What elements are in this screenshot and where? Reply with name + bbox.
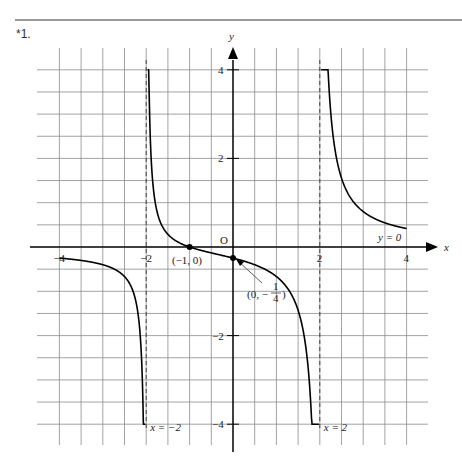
y-tick-label: 4 — [218, 64, 224, 76]
point-marker — [230, 255, 236, 261]
curve-left-branch — [59, 258, 145, 424]
x-axis-label: x — [443, 241, 449, 253]
point-label-0-quarter-num: 1 — [273, 280, 279, 292]
y-tick-label: −4 — [212, 418, 224, 430]
point-label-0-quarter-prefix: (0, − — [247, 288, 268, 301]
x-axis-arrow-icon — [426, 242, 438, 252]
graph: x = −2x = 2y = 0 x y O −4−22442−2−4 (−1,… — [0, 0, 462, 456]
x-tick-label: −2 — [140, 252, 152, 264]
y-axis-label: y — [228, 30, 234, 42]
y-tick-label: −2 — [212, 330, 224, 342]
curve-right-branch — [321, 70, 407, 229]
point-marker — [187, 244, 193, 250]
point-label-0-quarter-suffix: ) — [282, 288, 286, 301]
horizontal-asymptote-label: y = 0 — [377, 231, 402, 243]
vertical-asymptote-label: x = 2 — [323, 421, 348, 433]
point-label-0-quarter-den: 4 — [273, 292, 279, 304]
vertical-asymptote-label: x = −2 — [149, 421, 181, 433]
y-axis-arrow-icon — [228, 47, 238, 59]
origin-label: O — [220, 234, 228, 246]
y-tick-label: 2 — [218, 152, 224, 164]
point-annotation: (0, − 1 4 ) — [236, 259, 286, 304]
x-tick-label: 4 — [404, 252, 410, 264]
x-tick-label: 2 — [317, 252, 323, 264]
point-label-neg1-0: (−1, 0) — [172, 254, 202, 267]
